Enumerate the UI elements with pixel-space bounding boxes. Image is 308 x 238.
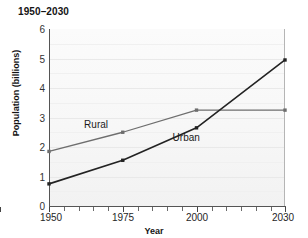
data-point-rural-1950 [47, 150, 50, 153]
series-label-urban: Urban [173, 132, 200, 143]
population-line-chart: 1950–2030 0 1 2 3 4 5 6 1950 1975 [0, 0, 308, 238]
series-markers-rural [47, 108, 286, 153]
data-point-urban-2030 [283, 58, 286, 61]
series-label-rural: Rural [84, 119, 108, 130]
series-layer [0, 0, 308, 238]
data-point-urban-1975 [121, 159, 124, 162]
data-point-rural-1975 [121, 131, 124, 134]
data-point-urban-2000 [195, 126, 198, 129]
data-point-rural-2000 [195, 108, 198, 111]
data-point-rural-2030 [283, 108, 286, 111]
series-line-rural [49, 110, 285, 151]
data-point-urban-1950 [47, 182, 50, 185]
